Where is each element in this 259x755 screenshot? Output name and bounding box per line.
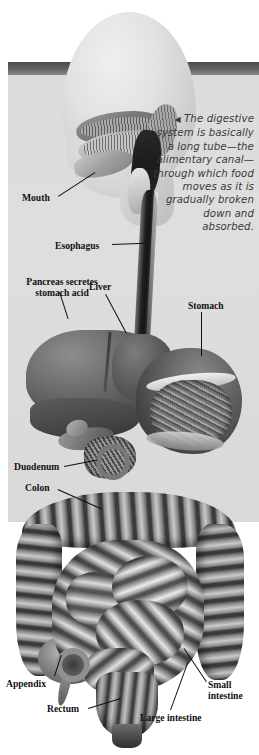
- label-stomach: Stomach: [188, 300, 224, 311]
- digestive-system-figure: ◀ The digestive system is basically a lo…: [0, 0, 259, 755]
- label-duodenum: Duodenum: [14, 461, 59, 472]
- caption-arrow-icon: ◀: [174, 115, 180, 124]
- label-appendix: Appendix: [6, 678, 46, 689]
- label-colon: Colon: [25, 482, 50, 493]
- duodenum-loop-illustration: [96, 444, 130, 480]
- label-large-intestine: Large intestine: [140, 712, 202, 723]
- figure-caption: ◀ The digestive system is basically a lo…: [150, 112, 254, 234]
- label-small-intestine: Small intestine: [208, 679, 254, 702]
- caption-text: The digestive system is basically a long…: [153, 113, 254, 232]
- label-liver: Liver: [89, 281, 111, 292]
- anal-canal-illustration: [112, 724, 142, 748]
- label-mouth: Mouth: [22, 192, 50, 203]
- ileum-ring-illustration: [56, 648, 90, 682]
- label-esophagus: Esophagus: [55, 240, 99, 251]
- background-left-margin: [0, 62, 8, 523]
- leader-line-stomach: [201, 312, 202, 356]
- label-rectum: Rectum: [47, 703, 79, 714]
